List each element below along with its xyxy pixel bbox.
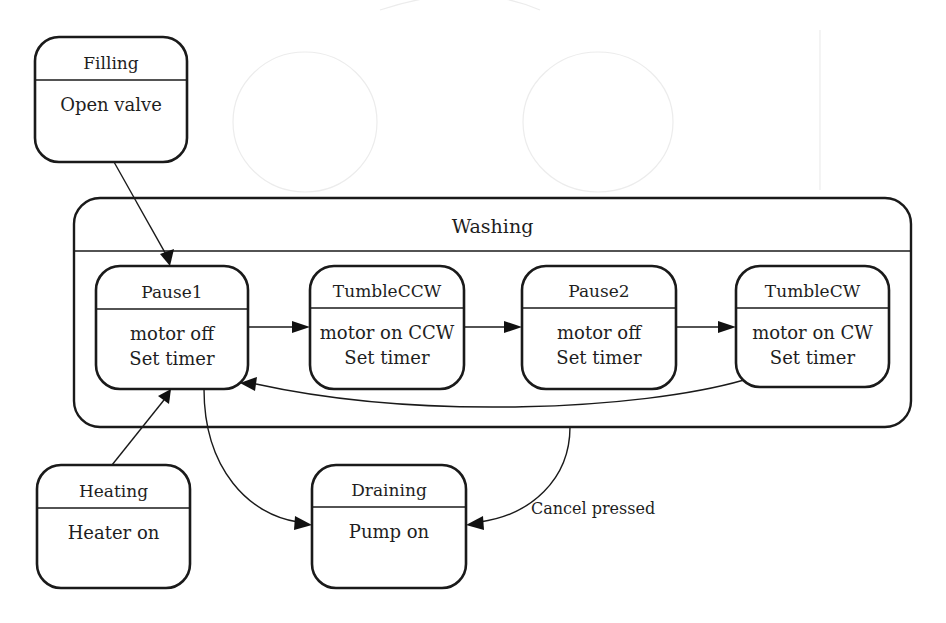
- state-draining[interactable]: DrainingPump on: [312, 465, 466, 588]
- state-pause1[interactable]: Pause1motor offSet timer: [96, 266, 248, 389]
- state-action: Set timer: [129, 348, 215, 369]
- state-diagram-canvas: Washing FillingOpen valvePause1motor off…: [0, 0, 946, 623]
- state-action: Open valve: [60, 94, 162, 115]
- state-name: Pause1: [141, 282, 202, 302]
- transition-washing-to-draining[interactable]: Cancel pressed: [466, 427, 655, 530]
- arrowhead-icon: [294, 516, 312, 530]
- states-layer: FillingOpen valvePause1motor offSet time…: [35, 37, 889, 588]
- state-heating[interactable]: HeatingHeater on: [37, 465, 190, 588]
- state-filling[interactable]: FillingOpen valve: [35, 37, 187, 162]
- state-action: Set timer: [344, 347, 430, 368]
- state-name: Pause2: [568, 281, 629, 301]
- state-machine-diagram: Washing FillingOpen valvePause1motor off…: [0, 0, 946, 623]
- state-action: Set timer: [556, 347, 642, 368]
- arrowhead-icon: [466, 516, 484, 530]
- state-action: motor off: [557, 322, 642, 343]
- state-action: Pump on: [349, 521, 430, 542]
- state-action: Set timer: [770, 347, 856, 368]
- state-action: motor off: [130, 323, 215, 344]
- state-name: Heating: [79, 481, 148, 501]
- state-tumbleccw[interactable]: TumbleCCWmotor on CCWSet timer: [310, 266, 464, 389]
- state-name: TumbleCW: [765, 281, 861, 301]
- state-pause2[interactable]: Pause2motor offSet timer: [522, 266, 676, 389]
- state-name: Filling: [83, 53, 138, 73]
- transition-label: Cancel pressed: [531, 499, 655, 518]
- state-tumblecw[interactable]: TumbleCWmotor on CWSet timer: [736, 266, 889, 387]
- state-action: motor on CCW: [320, 322, 455, 343]
- page-bleed-through: [233, 0, 820, 192]
- state-name: Draining: [351, 480, 427, 500]
- state-action: motor on CW: [752, 322, 873, 343]
- state-name: TumbleCCW: [333, 281, 442, 301]
- state-action: Heater on: [68, 522, 160, 543]
- composite-state-name: Washing: [452, 215, 534, 237]
